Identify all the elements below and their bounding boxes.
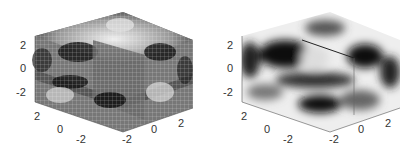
z-tick-0: 0 xyxy=(227,63,233,74)
y-tick-0: 0 xyxy=(151,124,157,135)
y-tick-0: 0 xyxy=(358,124,364,135)
x-tick-0: 0 xyxy=(57,124,63,135)
y-tick-neg2: -2 xyxy=(329,134,339,145)
z-tick-neg2: -2 xyxy=(16,87,26,98)
z-tick-2: 2 xyxy=(20,40,26,51)
x-tick-2: 2 xyxy=(34,111,40,122)
x-tick-neg2: -2 xyxy=(283,134,293,145)
z-tick-2: 2 xyxy=(227,40,233,51)
x-tick-0: 0 xyxy=(264,124,270,135)
x-tick-2: 2 xyxy=(241,111,247,122)
left-slice-plot: 2 0 -2 2 0 -2 -2 0 2 xyxy=(0,0,206,149)
right-slice-graphic xyxy=(205,0,413,149)
y-tick-neg2: -2 xyxy=(122,134,132,145)
y-tick-2: 2 xyxy=(178,118,184,129)
y-tick-2: 2 xyxy=(385,118,391,129)
z-tick-0: 0 xyxy=(20,63,26,74)
x-tick-neg2: -2 xyxy=(76,134,86,145)
right-slice-plot: 2 0 -2 2 0 -2 -2 0 2 xyxy=(205,0,411,149)
z-tick-neg2: -2 xyxy=(223,87,233,98)
left-slice-graphic xyxy=(0,0,206,149)
